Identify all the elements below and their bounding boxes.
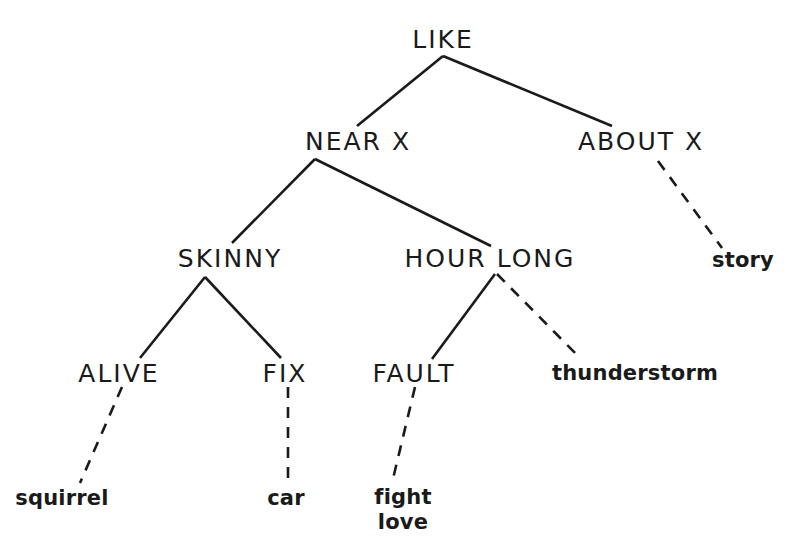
tree-edge-near_x-to-skinny (232, 159, 315, 243)
tree-node-like: LIKE (412, 27, 474, 53)
tree-node-car: car (267, 486, 305, 511)
tree-node-skinny: SKINNY (178, 246, 282, 272)
tree-edge-skinny-to-alive (140, 277, 205, 358)
tree-edges-layer (0, 0, 791, 558)
tree-edge-hour_long-to-fault (432, 274, 495, 359)
tree-node-thunderstorm: thunderstorm (552, 361, 718, 386)
tree-edge-about_x-to-story (658, 161, 722, 248)
tree-edge-like-to-about_x (443, 56, 612, 126)
tree-edge-hour_long-to-thunderstorm (497, 274, 581, 359)
cropped-caption (0, 549, 791, 558)
tree-node-story: story (712, 248, 774, 273)
tree-node-fight_love-line-0: fight (374, 485, 431, 510)
tree-node-fix: FIX (263, 361, 308, 387)
tree-edge-near_x-to-hour_long (315, 159, 491, 246)
tree-node-about_x: ABOUT X (578, 129, 704, 155)
tree-edge-alive-to-squirrel (80, 387, 122, 483)
tree-node-squirrel: squirrel (15, 486, 108, 511)
tree-node-hour_long: HOUR LONG (405, 246, 576, 272)
tree-node-fight_love-line-1: love (374, 510, 431, 535)
tree-node-alive: ALIVE (78, 361, 159, 387)
tree-node-near_x: NEAR X (305, 129, 411, 155)
tree-diagram-canvas: LIKENEAR XABOUT XSKINNYHOUR LONGALIVEFIX… (0, 0, 791, 558)
tree-edge-fault-to-fight_love (392, 387, 415, 483)
tree-edge-skinny-to-fix (205, 277, 281, 358)
tree-node-fight_love: fightlove (374, 485, 431, 535)
tree-edge-like-to-near_x (357, 56, 443, 126)
tree-node-fault: FAULT (372, 361, 455, 387)
